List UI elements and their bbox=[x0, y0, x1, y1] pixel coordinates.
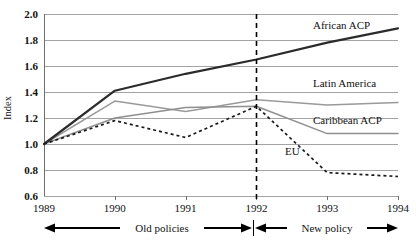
x-tick-label: 1993 bbox=[316, 202, 339, 214]
y-tick-label: 1.6 bbox=[24, 60, 38, 72]
y-tick-label: 1.8 bbox=[24, 34, 38, 46]
new-policy-annotation: New policy bbox=[254, 220, 399, 236]
x-tick-label: 1991 bbox=[175, 202, 197, 214]
new-policy-arrow-head-right bbox=[387, 224, 398, 233]
old-policies-arrow-head-right bbox=[241, 224, 252, 233]
old-policies-annotation: Old policies bbox=[44, 220, 252, 236]
line-chart-canvas: 0.60.81.01.21.41.61.82.0 198919901991199… bbox=[0, 0, 416, 247]
x-tick-label: 1992 bbox=[245, 202, 267, 214]
series-lines-group bbox=[44, 28, 398, 176]
x-tick-label: 1994 bbox=[387, 202, 410, 214]
y-tick-labels-group: 0.60.81.01.21.41.61.82.0 bbox=[24, 8, 38, 202]
series-label-african-acp: African ACP bbox=[313, 19, 370, 31]
y-tick-label: 1.2 bbox=[24, 112, 38, 124]
x-tick-label: 1990 bbox=[104, 202, 127, 214]
new-policy-label: New policy bbox=[301, 222, 353, 234]
series-label-latin-america: Latin America bbox=[313, 77, 376, 89]
y-tick-label: 1.0 bbox=[24, 138, 38, 150]
series-label-eu: EU bbox=[285, 145, 300, 157]
y-tick-label: 1.4 bbox=[24, 86, 38, 98]
old-policies-arrow-head-left bbox=[44, 224, 55, 233]
y-tick-label: 0.8 bbox=[24, 164, 38, 176]
old-policies-label: Old policies bbox=[135, 222, 188, 234]
series-label-caribbean-acp: Caribbean ACP bbox=[313, 114, 382, 126]
chart-figure: 0.60.81.01.21.41.61.82.0 198919901991199… bbox=[0, 0, 416, 247]
x-tick-label: 1989 bbox=[33, 202, 56, 214]
y-tick-label: 0.6 bbox=[24, 190, 38, 202]
y-axis-title: Index bbox=[2, 95, 13, 120]
new-policy-arrow-head-left bbox=[255, 224, 266, 233]
x-tick-labels-group: 198919901991199219931994 bbox=[33, 202, 410, 214]
y-tick-label: 2.0 bbox=[24, 8, 38, 20]
